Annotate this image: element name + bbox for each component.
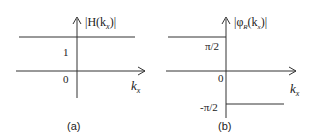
- caption-b: (b): [218, 120, 231, 132]
- figure-canvas: |H(kx)| 1 0 kx (a) |φR(kx)| π/2 0 -π/2 k…: [0, 0, 316, 139]
- tick-label-neg-pi-half: -π/2: [200, 101, 218, 113]
- x-axis-label-b: kx: [290, 81, 300, 98]
- tick-label-0-b: 0: [218, 72, 224, 84]
- tick-label-0-a: 0: [63, 73, 69, 85]
- panel-b: |φR(kx)| π/2 0 -π/2 kx (b): [166, 15, 300, 132]
- panel-a: |H(kx)| 1 0 kx (a): [16, 15, 145, 132]
- y-axis-label-a: |H(kx)|: [85, 15, 116, 31]
- y-axis-label-b: |φR(kx)|: [234, 15, 267, 31]
- tick-label-pi-half: π/2: [205, 40, 219, 52]
- x-axis-label-a: kx: [131, 78, 141, 95]
- caption-a: (a): [67, 120, 80, 132]
- tick-label-1: 1: [63, 46, 69, 58]
